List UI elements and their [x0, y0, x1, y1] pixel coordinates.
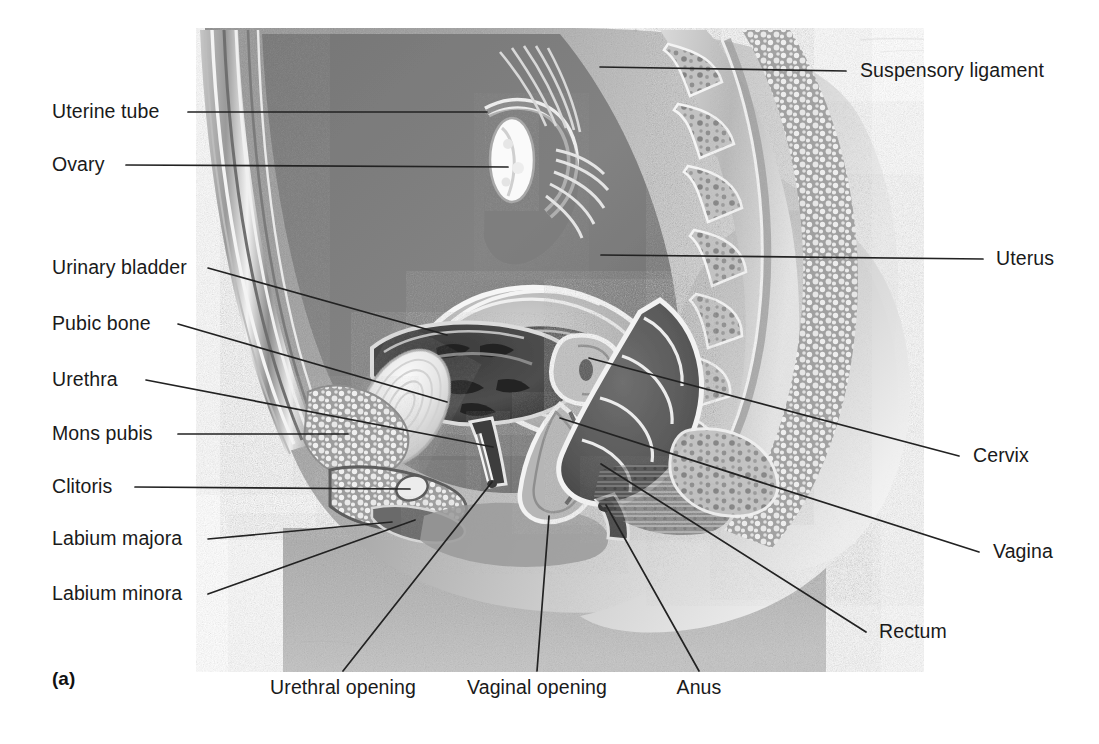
label-pubic-bone: Pubic bone [52, 314, 151, 334]
illustration-body [200, 3, 1030, 672]
anatomical-figure: Uterine tubeOvaryUrinary bladderPubic bo… [0, 0, 1099, 744]
scan-artifacts-top-right [860, 38, 1030, 58]
label-cervix: Cervix [973, 446, 1029, 466]
label-clitoris: Clitoris [52, 477, 112, 497]
label-suspensory-ligament: Suspensory ligament [860, 61, 1044, 81]
label-ovary: Ovary [52, 155, 105, 175]
label-urethral-opening: Urethral opening [270, 678, 416, 698]
label-urethra: Urethra [52, 370, 118, 390]
label-rectum: Rectum [879, 622, 947, 642]
label-vaginal-opening: Vaginal opening [467, 678, 607, 698]
panel-tag: (a) [52, 668, 75, 690]
label-uterus: Uterus [996, 249, 1054, 269]
label-labium-majora: Labium majora [52, 529, 182, 549]
label-vagina: Vagina [993, 542, 1053, 562]
label-labium-minora: Labium minora [52, 584, 182, 604]
label-anus: Anus [677, 678, 722, 698]
label-urinary-bladder: Urinary bladder [52, 258, 187, 278]
label-mons-pubis: Mons pubis [52, 424, 153, 444]
cervical-canal [579, 359, 593, 381]
label-uterine-tube: Uterine tube [52, 102, 159, 122]
ovary-structure [490, 118, 534, 202]
